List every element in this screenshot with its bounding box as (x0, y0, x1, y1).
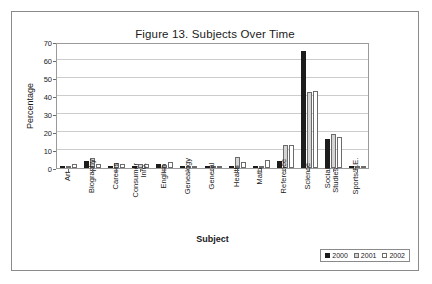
legend-item: 2001 (354, 252, 377, 259)
bar (331, 134, 336, 168)
bar-group (180, 44, 198, 168)
legend-label: 2002 (389, 252, 405, 259)
y-tick-label: 70 (44, 39, 52, 48)
y-tick-label: 20 (44, 129, 52, 138)
y-tick-label: 40 (44, 93, 52, 102)
bar (96, 164, 101, 168)
bar-group (132, 44, 150, 168)
legend-item: 2002 (382, 252, 405, 259)
x-tick-mark (68, 169, 69, 172)
bar (265, 160, 270, 168)
bar (301, 51, 306, 168)
bar (60, 166, 65, 168)
x-tick-mark (188, 169, 189, 172)
y-tick-label: 30 (44, 111, 52, 120)
x-tick-mark (164, 169, 165, 172)
bar (313, 91, 318, 168)
y-axis-title-label: Percentage (25, 83, 35, 129)
x-tick-mark (285, 169, 286, 172)
bar-group (60, 44, 78, 168)
bar-group (253, 44, 271, 168)
legend-swatch-icon (325, 253, 330, 258)
y-tick-label: 0 (48, 165, 52, 174)
bar (361, 166, 366, 168)
bar (66, 166, 71, 168)
x-tick-mark (357, 169, 358, 172)
y-tick-label: 50 (44, 75, 52, 84)
bar (325, 139, 330, 168)
bar (120, 164, 125, 168)
chart-title: Figure 13. Subjects Over Time (12, 28, 418, 40)
bar (72, 164, 77, 168)
x-tick-mark (116, 169, 117, 172)
y-tick-label: 60 (44, 57, 52, 66)
bar-group (229, 44, 247, 168)
plot-area (56, 43, 369, 169)
x-tick-mark (309, 169, 310, 172)
bar-group (301, 44, 319, 168)
bar (337, 137, 342, 168)
y-tick-label: 10 (44, 147, 52, 156)
figure-frame: Figure 13. Subjects Over Time Percentage… (11, 11, 419, 271)
y-tick-mark (53, 169, 56, 170)
bar (289, 145, 294, 168)
y-axis-title: Percentage (23, 43, 37, 169)
bar-group (84, 44, 102, 168)
bar-group (205, 44, 223, 168)
bar-group (325, 44, 343, 168)
x-axis-labels: ArtBiographyCareersConsumer Info.English… (56, 172, 369, 230)
bar (168, 162, 173, 168)
bar-group (349, 44, 367, 168)
bar-group (277, 44, 295, 168)
bar (307, 92, 312, 168)
x-tick-mark (213, 169, 214, 172)
x-tick-mark (140, 169, 141, 172)
legend-label: 2000 (332, 252, 348, 259)
bar-group (156, 44, 174, 168)
bars-layer (57, 44, 368, 168)
x-axis-title: Subject (56, 234, 369, 244)
bar (241, 162, 246, 168)
bar (217, 166, 222, 168)
x-tick-mark (237, 169, 238, 172)
legend-swatch-icon (354, 253, 359, 258)
x-tick-mark (92, 169, 93, 172)
x-tick-mark (333, 169, 334, 172)
bar (192, 166, 197, 168)
x-tick-mark (261, 169, 262, 172)
legend-label: 2001 (361, 252, 377, 259)
legend: 200020012002 (320, 249, 410, 262)
bar-group (108, 44, 126, 168)
legend-swatch-icon (382, 253, 387, 258)
legend-item: 2000 (325, 252, 348, 259)
